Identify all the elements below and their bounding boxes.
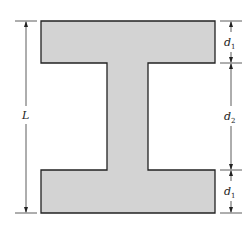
bottom-flange-label: d1: [224, 185, 236, 200]
length-dimension: L: [15, 21, 37, 213]
length-label: L: [21, 109, 29, 122]
i-beam-diagram: L d1 d2 d1: [0, 0, 252, 228]
top-flange-label: d1: [224, 36, 236, 51]
i-beam-shape: [41, 21, 215, 213]
right-dimensions: d1 d2 d1: [220, 21, 242, 213]
web-label: d2: [224, 110, 236, 125]
